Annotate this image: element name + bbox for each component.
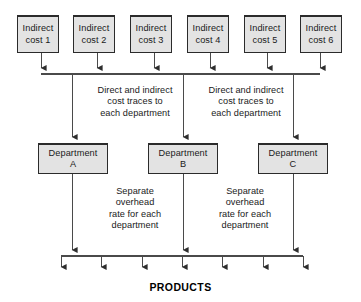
indirect-cost-box-3[interactable]: Indirect cost 3	[130, 15, 172, 53]
department-box-c[interactable]: Department C	[258, 143, 328, 174]
cost-allocation-diagram: Indirect cost 1 Indirect cost 2 Indirect…	[0, 0, 361, 302]
indirect-cost-label-3: Indirect cost 3	[136, 23, 167, 46]
department-label-c: Department C	[268, 148, 317, 171]
indirect-cost-box-1[interactable]: Indirect cost 1	[17, 15, 59, 53]
overhead-rate-caption-left: Separate overhead rate for each departme…	[87, 186, 183, 231]
indirect-cost-label-4: Indirect cost 4	[193, 23, 224, 46]
trace-caption-right: Direct and indirect cost traces to each …	[192, 85, 300, 119]
indirect-cost-label-6: Indirect cost 6	[306, 23, 337, 46]
indirect-cost-box-4[interactable]: Indirect cost 4	[187, 15, 229, 53]
department-label-a: Department A	[48, 148, 97, 171]
department-label-b: Department B	[158, 148, 207, 171]
overhead-rate-caption-right: Separate overhead rate for each departme…	[197, 186, 293, 231]
indirect-cost-box-5[interactable]: Indirect cost 5	[244, 15, 286, 53]
indirect-cost-box-6[interactable]: Indirect cost 6	[300, 15, 342, 53]
indirect-cost-label-1: Indirect cost 1	[23, 23, 54, 46]
indirect-cost-label-5: Indirect cost 5	[250, 23, 281, 46]
products-label: PRODUCTS	[0, 281, 361, 293]
trace-caption-left: Direct and indirect cost traces to each …	[81, 85, 189, 119]
department-box-b[interactable]: Department B	[148, 143, 218, 174]
department-box-a[interactable]: Department A	[38, 143, 108, 174]
indirect-cost-box-2[interactable]: Indirect cost 2	[73, 15, 115, 53]
indirect-cost-label-2: Indirect cost 2	[79, 23, 110, 46]
